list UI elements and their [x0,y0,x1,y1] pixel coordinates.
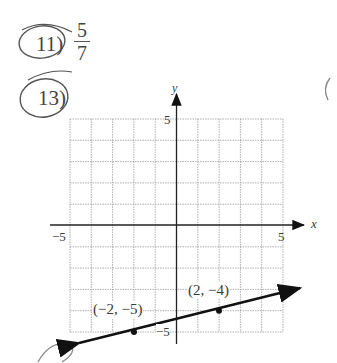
y-axis-label: y [172,81,177,96]
y-max-tick-label: 5 [164,112,171,128]
point-a [131,329,137,335]
point-b-label: (2, −4) [187,282,230,299]
x-axis-label: x [311,216,317,232]
x-min-tick-label: −5 [52,229,66,245]
x-max-tick-label: 5 [278,229,285,245]
coordinate-plane [0,0,337,363]
point-b [216,308,222,314]
y-min-tick-label: −5 [156,324,170,340]
point-a-label: (−2, −5) [92,301,143,318]
